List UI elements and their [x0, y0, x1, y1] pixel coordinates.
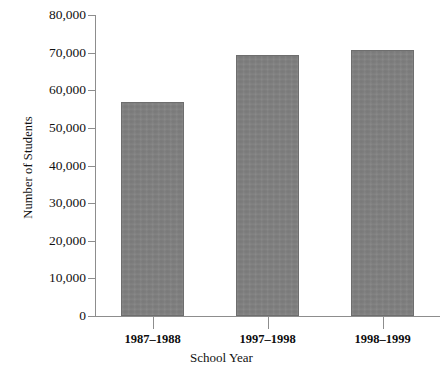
x-axis-tick-label: 1987–1988 — [93, 332, 213, 347]
x-axis-tick-label: 1997–1998 — [208, 332, 328, 347]
x-axis-tick-mark — [268, 317, 269, 329]
y-axis-tick-mark — [88, 15, 96, 16]
y-axis-tick-mark — [88, 166, 96, 167]
bar — [236, 55, 299, 316]
x-axis-tick-mark — [153, 317, 154, 329]
x-axis-tick-mark — [383, 317, 384, 329]
y-axis-tick-mark — [88, 241, 96, 242]
y-axis-tick-label: 0 — [28, 308, 86, 324]
y-axis-tick-label: 30,000 — [28, 195, 86, 211]
plot-area — [95, 15, 440, 316]
y-axis-tick-label: 70,000 — [28, 45, 86, 61]
bar — [351, 50, 414, 316]
x-axis-tick-label: 1998–1999 — [323, 332, 443, 347]
y-axis-tick-label: 20,000 — [28, 233, 86, 249]
bar-chart: Number of Students 010,00020,00030,00040… — [0, 0, 443, 372]
y-axis-tick-labels: 010,00020,00030,00040,00050,00060,00070,… — [28, 0, 86, 372]
y-axis-tick-mark — [88, 128, 96, 129]
y-axis-tick-mark — [88, 53, 96, 54]
x-axis-title: School Year — [0, 350, 443, 366]
y-axis-tick-mark — [88, 203, 96, 204]
y-axis-tick-label: 10,000 — [28, 270, 86, 286]
y-axis-tick-mark — [88, 90, 96, 91]
y-axis-tick-mark — [88, 278, 96, 279]
y-axis-tick-label: 60,000 — [28, 82, 86, 98]
y-axis-tick-mark — [88, 316, 96, 317]
y-axis-tick-label: 80,000 — [28, 7, 86, 23]
y-axis-tick-label: 50,000 — [28, 120, 86, 136]
bar — [121, 102, 184, 316]
y-axis-tick-label: 40,000 — [28, 158, 86, 174]
